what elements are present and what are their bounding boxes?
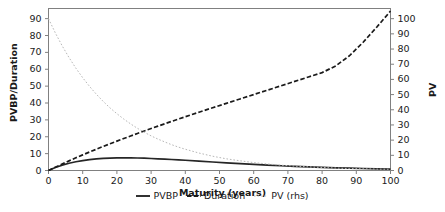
y-axis-right-title: PV: [428, 82, 438, 96]
legend-swatch-dashed-icon: [187, 191, 201, 201]
y-axis-right-tick-label: 50: [398, 90, 428, 100]
x-axis-tick-label: 0: [34, 176, 64, 186]
y-axis-right-tick-marks: [391, 19, 395, 171]
chart-figure: 0102030405060708090 01020304050607080901…: [0, 0, 445, 212]
x-axis-tick-label: 30: [136, 176, 166, 186]
y-axis-left-title: PVBP/Duration: [9, 43, 19, 122]
x-axis-tick-label: 60: [239, 176, 269, 186]
y-axis-right-tick-label: 100: [398, 14, 428, 24]
y-axis-left-tick-label: 20: [2, 132, 42, 142]
y-axis-right-tick-label: 10: [398, 150, 428, 160]
y-axis-left-tick-label: 90: [2, 14, 42, 24]
y-axis-right-tick-label: 0: [398, 166, 428, 176]
x-axis-tick-marks: [49, 171, 391, 175]
x-axis-tick-label: 50: [205, 176, 235, 186]
y-axis-left-tick-marks: [45, 19, 49, 171]
legend-swatch-solid-icon: [136, 191, 150, 201]
y-axis-right-tick-label: 40: [398, 105, 428, 115]
y-axis-right-tick-label: 70: [398, 59, 428, 69]
legend-item[interactable]: Duration: [187, 191, 245, 201]
legend-label: Duration: [204, 191, 245, 201]
legend-label: PV (rhs): [271, 191, 308, 201]
y-axis-right-tick-label: 80: [398, 44, 428, 54]
legend-label: PVBP: [153, 191, 177, 201]
y-axis-right-tick-label: 60: [398, 74, 428, 84]
x-axis-tick-label: 20: [102, 176, 132, 186]
x-axis-tick-label: 80: [307, 176, 337, 186]
legend-item[interactable]: PVBP: [136, 191, 177, 201]
plot-area-frame: [49, 9, 391, 171]
y-axis-right-tick-label: 20: [398, 135, 428, 145]
y-axis-right-tick-label: 90: [398, 29, 428, 39]
x-axis-tick-label: 40: [170, 176, 200, 186]
y-axis-left-tick-label: 10: [2, 149, 42, 159]
x-axis-tick-label: 90: [341, 176, 371, 186]
y-axis-right-tick-label: 30: [398, 120, 428, 130]
y-axis-left-tick-label: 80: [2, 31, 42, 41]
x-axis-tick-label: 70: [273, 176, 303, 186]
legend-item[interactable]: PV (rhs): [254, 191, 308, 201]
legend-swatch-dotted-icon: [254, 191, 268, 201]
y-axis-left-tick-label: 0: [2, 166, 42, 176]
x-axis-tick-label: 10: [68, 176, 98, 186]
x-axis-tick-label: 100: [376, 176, 406, 186]
chart-legend: PVBPDurationPV (rhs): [0, 191, 445, 201]
